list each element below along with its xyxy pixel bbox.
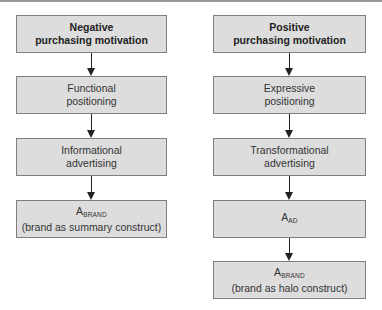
arrow-down-icon (285, 114, 294, 138)
box-label-line1: Negative (70, 21, 114, 34)
functional-positioning-box: Functional positioning (16, 76, 167, 114)
transformational-advertising-box: Transformational advertising (213, 138, 366, 176)
box-label-line2: purchasing motivation (35, 34, 148, 47)
arrow-down-icon (87, 114, 96, 138)
negative-purchasing-motivation-box: Negative purchasing motivation (16, 15, 167, 53)
top-rule (0, 0, 382, 2)
box-label-line2: positioning (264, 95, 314, 108)
ad-attitude-box: AAD (213, 200, 366, 238)
brand-attitude-halo-box: ABRAND (brand as halo construct) (213, 261, 366, 299)
box-label-line1: Expressive (264, 82, 315, 95)
box-label-line2: purchasing motivation (233, 34, 346, 47)
box-label-line1: Transformational (250, 144, 328, 157)
arrow-down-icon (87, 176, 96, 200)
arrow-down-icon (87, 53, 96, 76)
arrow-down-icon (285, 176, 294, 200)
box-label-line2: (brand as halo construct) (231, 282, 347, 295)
ad-attitude-symbol: AAD (281, 211, 297, 227)
brand-attitude-symbol: ABRAND (274, 266, 305, 282)
subscript: BRAND (83, 211, 107, 218)
arrow-down-icon (285, 53, 294, 76)
positive-purchasing-motivation-box: Positive purchasing motivation (213, 15, 366, 53)
arrow-down-icon (285, 238, 294, 261)
box-label-line1: Positive (269, 21, 309, 34)
informational-advertising-box: Informational advertising (16, 138, 167, 176)
expressive-positioning-box: Expressive positioning (213, 76, 366, 114)
box-label-line1: Informational (61, 144, 122, 157)
brand-attitude-symbol: ABRAND (76, 205, 107, 221)
box-label-line2: advertising (66, 157, 117, 170)
box-label-line2: advertising (264, 157, 315, 170)
box-label-line1: Functional (67, 82, 115, 95)
subscript: BRAND (281, 272, 305, 279)
box-label-line2: positioning (66, 95, 116, 108)
brand-attitude-summary-box: ABRAND (brand as summary construct) (16, 200, 167, 238)
box-label-line2: (brand as summary construct) (22, 221, 161, 234)
subscript: AD (288, 217, 297, 224)
